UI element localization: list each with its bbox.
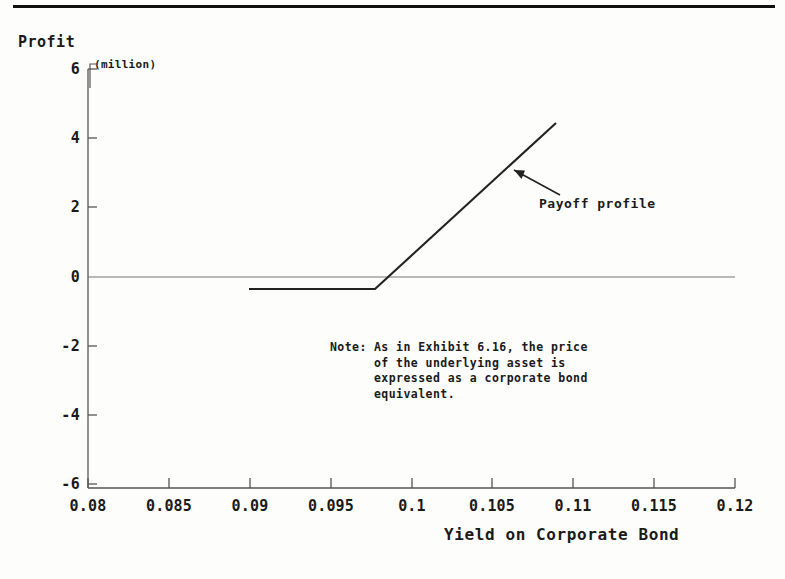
plot-area	[0, 0, 785, 579]
note-line-1: As in Exhibit 6.16, the price	[374, 340, 588, 354]
y-tick-label: -4	[40, 406, 80, 424]
x-tick-label: 0.095	[286, 497, 376, 515]
note-line-4: equivalent.	[330, 387, 588, 403]
y-tick-label: -2	[40, 337, 80, 355]
y-tick-label: 2	[40, 198, 80, 216]
payoff-profile-annotation-label: Payoff profile	[539, 196, 656, 211]
y-unit-leader-line	[90, 64, 97, 88]
chart-note: Note:As in Exhibit 6.16, the price of th…	[330, 340, 588, 402]
x-tick-label: 0.105	[447, 497, 537, 515]
x-tick-label: 0.09	[205, 497, 295, 515]
x-tick-label: 0.11	[528, 497, 618, 515]
x-tick-label: 0.08	[43, 497, 133, 515]
x-axis-title: Yield on Corporate Bond	[444, 525, 679, 544]
chart-page: Profit (million)	[0, 0, 785, 579]
note-line-2: of the underlying asset is	[330, 356, 588, 372]
x-tick-label: 0.085	[124, 497, 214, 515]
x-tick-label: 0.115	[609, 497, 699, 515]
x-tick-label: 0.1	[367, 497, 457, 515]
note-label: Note:	[330, 340, 374, 356]
x-tick-label: 0.12	[690, 497, 780, 515]
payoff-profile-line	[249, 123, 556, 289]
x-axis-ticks	[88, 478, 735, 488]
y-tick-label: 4	[40, 129, 80, 147]
y-tick-label: -6	[40, 475, 80, 493]
y-tick-label: 6	[40, 60, 80, 78]
y-tick-label: 0	[40, 268, 80, 286]
payoff-profile-arrow	[514, 170, 560, 195]
note-line-3: expressed as a corporate bond	[330, 371, 588, 387]
